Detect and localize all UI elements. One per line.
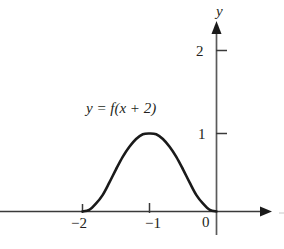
y-axis-label: y [216,4,223,19]
graph-figure: y 2 1 0 −2 −1 y = f(x + 2) [0,0,284,249]
coordinate-plot [0,0,284,249]
y-tick-label-2: 2 [196,44,204,59]
x-axis-arrowhead [260,207,272,217]
x-tick-label-neg2: −2 [71,216,87,231]
function-curve [83,133,217,211]
x-tick-label-neg1: −1 [145,216,161,231]
y-axis-arrowhead [212,21,222,34]
y-tick-label-1: 1 [198,127,206,142]
origin-label-0: 0 [202,215,210,230]
curve-equation-label: y = f(x + 2) [86,101,156,116]
